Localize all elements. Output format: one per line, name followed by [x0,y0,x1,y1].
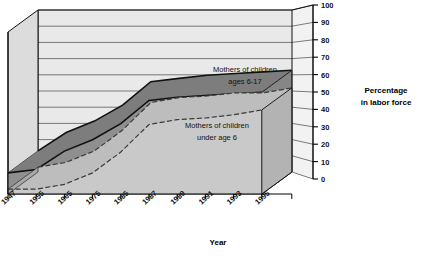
y-tick-100: 100 [321,1,334,10]
y-tick-90: 90 [321,18,329,27]
y-tick-30: 30 [321,123,329,132]
y-tick-10: 10 [321,158,329,167]
y-axis-title-line1: Percentage [364,86,408,95]
series-lower-label-line2: under age 6 [197,133,237,142]
y-tick-20: 20 [321,140,329,149]
y-tick-70: 70 [321,53,329,62]
series-upper-label-line1: Mothers of children [213,65,277,74]
chart-figure: 100 90 80 70 60 50 40 30 20 10 0 [0,0,421,261]
series-lower-label-line1: Mothers of children [185,121,249,130]
y-axis-title: Percentage in labor force [361,86,412,107]
y-tick-0: 0 [321,175,325,184]
y-tick-60: 60 [321,71,329,80]
y-tick-40: 40 [321,105,329,114]
area-chart-svg: 100 90 80 70 60 50 40 30 20 10 0 [0,0,421,261]
y-tick-80: 80 [321,36,329,45]
y-axis: 100 90 80 70 60 50 40 30 20 10 0 [313,1,334,184]
series-upper-label-line2: ages 6-17 [228,77,261,86]
x-axis-title: Year [210,238,227,247]
y-tick-50: 50 [321,88,329,97]
y-axis-title-line2: in labor force [361,98,412,107]
